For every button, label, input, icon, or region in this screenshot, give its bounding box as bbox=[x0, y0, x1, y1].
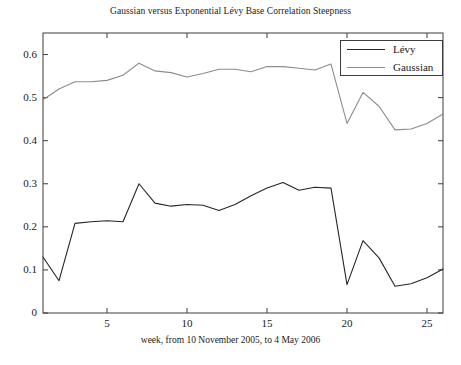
legend-swatch-gaussian bbox=[347, 67, 385, 68]
legend-item-levy: Lévy bbox=[341, 41, 444, 59]
chart-legend: Lévy Gaussian bbox=[340, 40, 443, 76]
y-tick-label: 0.1 bbox=[3, 263, 37, 275]
y-tick-label: 0.6 bbox=[3, 48, 37, 60]
y-tick-label: 0 bbox=[3, 306, 37, 318]
legend-swatch-levy bbox=[347, 49, 385, 50]
x-tick-label: 25 bbox=[412, 317, 442, 329]
x-tick-label: 15 bbox=[252, 317, 282, 329]
legend-item-gaussian: Gaussian bbox=[341, 59, 444, 77]
y-tick-label: 0.5 bbox=[3, 91, 37, 103]
x-tick-label: 10 bbox=[172, 317, 202, 329]
y-tick-label: 0.2 bbox=[3, 220, 37, 232]
x-axis-label: week, from 10 November 2005, to 4 May 20… bbox=[0, 335, 461, 345]
legend-label-gaussian: Gaussian bbox=[393, 61, 433, 73]
legend-label-levy: Lévy bbox=[393, 43, 416, 55]
x-tick-label: 5 bbox=[92, 317, 122, 329]
y-tick-label: 0.3 bbox=[3, 177, 37, 189]
x-tick-label: 20 bbox=[332, 317, 362, 329]
y-tick-label: 0.4 bbox=[3, 134, 37, 146]
chart-figure: Gaussian versus Exponential Lévy Base Co… bbox=[0, 0, 461, 365]
